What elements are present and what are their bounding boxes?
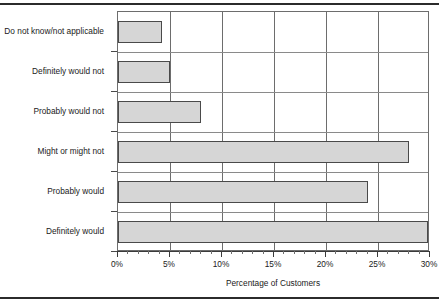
x-axis-tick-minor [211,251,212,254]
category-axis-labels: Do not know/not applicableDefinitely wou… [0,11,112,251]
gridline-horizontal [118,92,428,93]
gridline-vertical [222,12,223,250]
x-axis-tick-minor [335,251,336,254]
x-axis-tick-minor [419,251,420,254]
x-axis-tick-label-5: 25% [369,259,386,269]
x-axis-tick-major-1 [169,251,170,257]
bar-1 [118,61,170,83]
x-axis-tick-minor [315,251,316,254]
x-axis-tick-label-2: 10% [213,259,230,269]
category-label-4: Probably would [47,186,104,196]
x-axis-tick-major-3 [273,251,274,257]
category-label-1: Definitely would not [32,66,104,76]
gridline-horizontal [118,212,428,213]
x-axis-tick-label-6: 30% [421,259,438,269]
bar-chart-figure: Do not know/not applicableDefinitely wou… [0,5,439,297]
x-axis-tick-major-4 [325,251,326,257]
bar-2 [118,101,201,123]
x-axis-tick-major-5 [377,251,378,257]
y-axis-tick-4 [111,211,117,212]
x-axis-tick-minor [398,251,399,254]
x-axis-tick-minor [148,251,149,254]
x-axis-tick-minor [179,251,180,254]
x-axis-tick-minor [283,251,284,254]
bar-0 [118,21,162,43]
category-label-2: Probably would not [33,106,104,116]
x-axis-tick-label-3: 15% [265,259,282,269]
bar-5 [118,221,428,243]
category-label-0: Do not know/not applicable [4,26,104,36]
gridline-horizontal [118,52,428,53]
gridline-horizontal [118,132,428,133]
x-axis-tick-minor [200,251,201,254]
x-axis-tick-minor [127,251,128,254]
x-axis-tick-label-0: 0% [111,259,123,269]
gridline-vertical [170,12,171,250]
x-axis-tick-minor [159,251,160,254]
x-axis-tick-major-2 [221,251,222,257]
bottom-divider-rule [0,297,439,299]
x-axis-tick-minor [263,251,264,254]
y-axis-tick-1 [111,91,117,92]
x-axis-tick-label-1: 5% [163,259,175,269]
y-axis-tick-0 [111,51,117,52]
x-axis-tick-minor [190,251,191,254]
x-axis-tick-minor [356,251,357,254]
category-label-5: Definitely would [46,226,104,236]
x-axis-tick-minor [387,251,388,254]
gridline-vertical [378,12,379,250]
x-axis-tick-label-4: 20% [317,259,334,269]
x-axis-tick-minor [294,251,295,254]
x-axis-tick-minor [304,251,305,254]
gridline-vertical [326,12,327,250]
gridline-vertical [274,12,275,250]
x-axis-tick-minor [408,251,409,254]
gridline-horizontal [118,172,428,173]
x-axis-tick-minor [252,251,253,254]
plot-area [117,11,429,251]
category-label-3: Might or might not [38,146,104,156]
y-axis-tick-2 [111,131,117,132]
x-axis-tick-minor [231,251,232,254]
x-axis-tick-major-0 [117,251,118,257]
x-axis-tick-major-6 [429,251,430,257]
bar-4 [118,181,368,203]
y-axis-tick-3 [111,171,117,172]
x-axis-tick-minor [138,251,139,254]
x-axis-tick-minor [242,251,243,254]
x-axis-tick-minor [367,251,368,254]
x-axis-title: Percentage of Customers [117,278,429,288]
bar-3 [118,141,409,163]
x-axis-tick-minor [346,251,347,254]
